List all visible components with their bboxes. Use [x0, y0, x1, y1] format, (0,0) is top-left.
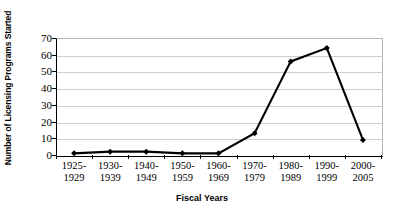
- gridline: [57, 56, 382, 57]
- y-axis-tick-label: 40: [8, 83, 52, 94]
- gridline: [57, 139, 382, 140]
- x-axis-tick-mark: [56, 155, 57, 159]
- gridline: [57, 106, 382, 107]
- x-axis-tick-label-line: 2000-: [340, 160, 386, 172]
- x-axis-tick-label-line: 2005: [340, 172, 386, 184]
- gridline: [57, 123, 382, 124]
- x-axis-tick-label: 2000-2005: [340, 160, 386, 183]
- y-axis-tick-mark: [52, 55, 56, 56]
- x-axis-tick-mark: [237, 155, 238, 159]
- x-axis-tick-mark: [381, 155, 382, 159]
- y-axis-tick-mark: [52, 122, 56, 123]
- x-axis-tick-mark: [92, 155, 93, 159]
- y-axis-tick-label: 20: [8, 116, 52, 127]
- y-axis-tick-label: 70: [8, 33, 52, 44]
- x-axis-tick-mark: [164, 155, 165, 159]
- plot-area: [56, 38, 383, 157]
- gridline: [57, 72, 382, 73]
- x-axis-tick-mark: [128, 155, 129, 159]
- y-axis-tick-mark: [52, 138, 56, 139]
- x-axis-tick-mark: [309, 155, 310, 159]
- y-axis-tick-label: 0: [8, 150, 52, 161]
- y-axis-tick-label: 60: [8, 49, 52, 60]
- x-axis-title: Fiscal Years: [0, 193, 404, 203]
- y-axis-tick-mark: [52, 88, 56, 89]
- y-axis-tick-label: 10: [8, 133, 52, 144]
- y-axis-tick-label: 30: [8, 99, 52, 110]
- x-axis-tick-mark: [273, 155, 274, 159]
- y-axis-tick-mark: [52, 105, 56, 106]
- y-axis-tick-mark: [52, 38, 56, 39]
- line-chart: Number of Licensing Programs Started 010…: [0, 0, 404, 213]
- x-axis-tick-mark: [345, 155, 346, 159]
- y-axis-tick-label: 50: [8, 66, 52, 77]
- x-axis-tick-mark: [200, 155, 201, 159]
- y-axis-tick-mark: [52, 71, 56, 72]
- gridline: [57, 89, 382, 90]
